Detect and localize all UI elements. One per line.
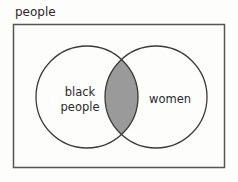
set-label-line: black <box>50 85 110 100</box>
set-label-line: people <box>50 100 110 115</box>
set-label-women: women <box>140 92 200 107</box>
set-label-black-people: black people <box>50 85 110 115</box>
venn-diagram <box>0 0 238 182</box>
